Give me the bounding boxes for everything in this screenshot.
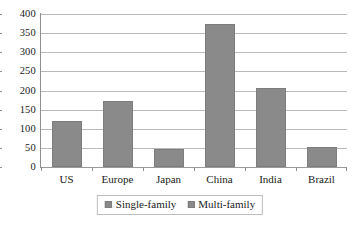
y-tick-label-50: 50	[2, 143, 36, 153]
bar-slot	[245, 14, 296, 167]
y-tick-mark-100	[0, 129, 2, 130]
x-tick-mark	[296, 167, 297, 171]
legend-swatch-icon	[105, 201, 112, 208]
bars-group	[41, 14, 347, 167]
y-tick-mark-400	[0, 14, 2, 15]
bar-chart-figure: 050100150200250300350400 USEuropeJapanCh…	[0, 0, 360, 229]
chart-legend: Single-familyMulti-family	[97, 195, 263, 215]
y-tick-mark-250	[0, 71, 2, 72]
x-tick-mark	[245, 167, 246, 171]
y-tick-label-300: 300	[2, 47, 36, 57]
legend-swatch-icon	[187, 201, 194, 208]
bar-slot	[92, 14, 143, 167]
y-tick-label-0: 0	[2, 162, 36, 172]
bar-slot	[41, 14, 92, 167]
y-tick-label-400: 400	[2, 9, 36, 19]
x-tick-label-china: China	[194, 172, 245, 186]
legend-entry[interactable]: Multi-family	[187, 198, 255, 211]
bar-slot	[194, 14, 245, 167]
bar	[307, 147, 337, 167]
plot-area	[41, 14, 347, 167]
y-tick-label-200: 200	[2, 86, 36, 96]
x-axis-tick-labels: USEuropeJapanChinaIndiaBrazil	[41, 172, 347, 188]
bar-slot	[143, 14, 194, 167]
bar	[154, 149, 184, 167]
x-tick-mark	[41, 167, 42, 171]
y-tick-mark-300	[0, 52, 2, 53]
x-tick-label-japan: Japan	[143, 172, 194, 186]
x-tick-mark	[92, 167, 93, 171]
y-tick-mark-350	[0, 33, 2, 34]
y-tick-label-100: 100	[2, 124, 36, 134]
bar	[205, 24, 235, 167]
x-tick-mark	[194, 167, 195, 171]
y-tick-label-150: 150	[2, 105, 36, 115]
x-tick-label-europe: Europe	[92, 172, 143, 186]
y-tick-mark-0	[0, 167, 2, 168]
bar	[52, 121, 82, 167]
y-tick-label-250: 250	[2, 66, 36, 76]
legend-label: Multi-family	[198, 198, 255, 211]
y-tick-mark-50	[0, 148, 2, 149]
y-tick-mark-150	[0, 110, 2, 111]
x-tick-mark	[346, 167, 347, 171]
x-tick-label-brazil: Brazil	[296, 172, 347, 186]
bar	[256, 88, 286, 167]
bar-slot	[296, 14, 347, 167]
legend-entry[interactable]: Single-family	[105, 198, 177, 211]
bar	[103, 101, 133, 167]
y-tick-mark-200	[0, 91, 2, 92]
legend-label: Single-family	[116, 198, 177, 211]
x-tick-label-india: India	[245, 172, 296, 186]
y-tick-label-350: 350	[2, 28, 36, 38]
x-tick-mark	[143, 167, 144, 171]
x-tick-label-us: US	[41, 172, 92, 186]
